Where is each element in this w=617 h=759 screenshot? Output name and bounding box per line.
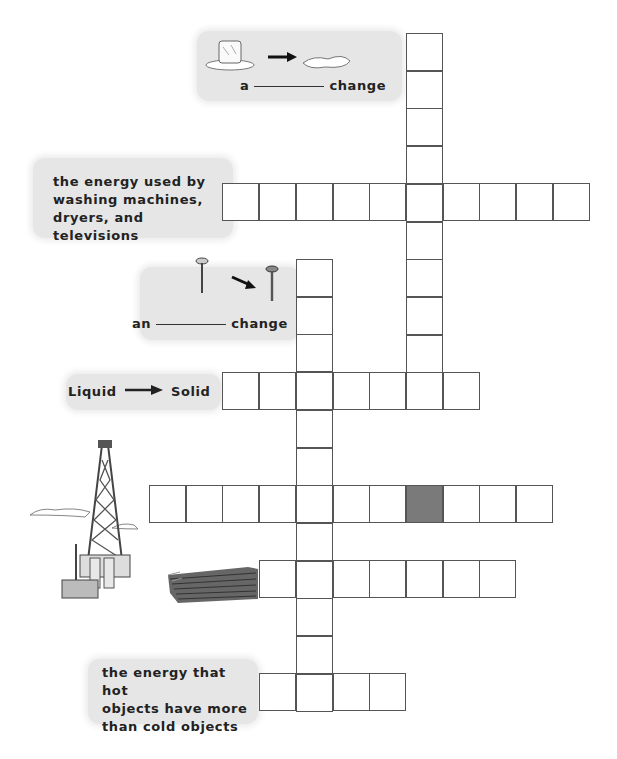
arrow-right-icon	[125, 385, 163, 395]
answer-blank	[156, 324, 226, 325]
crossword-cell[interactable]	[369, 560, 406, 598]
clue-freezing-label: Liquid Solid	[68, 383, 210, 401]
clue-thermal-text: the energy that hot objects have more th…	[102, 664, 257, 736]
ice-melting-icon	[203, 35, 353, 73]
crossword-cell[interactable]	[333, 372, 370, 410]
clue-line: dryers, and televisions	[53, 209, 228, 245]
crossword-cell[interactable]	[406, 108, 443, 146]
crossword-cell[interactable]	[516, 183, 553, 221]
answer-blank	[254, 86, 324, 87]
clue-freezing: Liquid Solid	[66, 374, 221, 410]
clue-physical-change-label: achange	[240, 77, 386, 95]
clue-prefix: a	[240, 78, 249, 93]
clue-physical-change: achange	[197, 31, 402, 101]
clue-line: the energy that hot	[102, 664, 257, 700]
crossword-cell[interactable]	[222, 372, 259, 410]
crossword-cell[interactable]	[406, 71, 443, 109]
crossword-cell[interactable]	[406, 560, 443, 598]
crossword-cell[interactable]	[406, 372, 443, 410]
crossword-cell[interactable]	[186, 485, 223, 523]
crossword-cell[interactable]	[333, 183, 370, 221]
crossword-cell[interactable]	[296, 636, 333, 674]
crossword-cell[interactable]	[406, 297, 443, 335]
crossword-cell[interactable]	[369, 673, 406, 711]
crossword-cell[interactable]	[406, 146, 443, 184]
crossword-cell[interactable]	[333, 485, 370, 523]
crossword-cell[interactable]	[516, 485, 553, 523]
crossword-cell[interactable]	[296, 448, 333, 486]
crossword-cell[interactable]	[443, 560, 480, 598]
crossword-cell[interactable]	[222, 183, 259, 221]
clue-chemical-label: anchange	[132, 315, 288, 333]
crossword-cell[interactable]	[369, 183, 406, 221]
clue-thermal-energy: the energy that hot objects have more th…	[88, 659, 258, 724]
clue-line: objects have more	[102, 700, 257, 718]
clue-to: Solid	[171, 384, 211, 399]
crossword-cell[interactable]	[369, 485, 406, 523]
crossword-cell[interactable]	[222, 485, 259, 523]
crossword-cell[interactable]	[296, 410, 333, 448]
crossword-cell[interactable]	[406, 222, 443, 260]
crossword-cell[interactable]	[369, 372, 406, 410]
crossword-cell[interactable]	[296, 561, 333, 599]
clue-prefix: an	[132, 316, 151, 331]
crossword-cell[interactable]	[333, 673, 370, 711]
crossword-cell[interactable]	[259, 560, 296, 598]
clue-electrical-energy: the energy used by washing machines, dry…	[33, 158, 233, 238]
crossword-cell[interactable]	[296, 523, 333, 561]
crossword-cell[interactable]	[259, 485, 296, 523]
crossword-cell[interactable]	[259, 673, 296, 711]
crossword-cell[interactable]	[443, 183, 480, 221]
crossword-cell[interactable]	[406, 33, 443, 71]
clue-suffix: change	[231, 316, 288, 331]
crossword-cell[interactable]	[259, 372, 296, 410]
crossword-cell-shaded[interactable]	[406, 485, 443, 523]
crossword-cell[interactable]	[406, 184, 443, 222]
crossword-cell[interactable]	[443, 372, 480, 410]
oil-derrick-icon	[30, 440, 150, 605]
crossword-cell[interactable]	[553, 183, 590, 221]
lumber-stack-icon	[168, 563, 258, 603]
clue-line: the energy used by	[53, 173, 228, 191]
crossword-cell[interactable]	[479, 485, 516, 523]
crossword-cell[interactable]	[296, 674, 333, 712]
crossword-cell[interactable]	[259, 183, 296, 221]
crossword-cell[interactable]	[296, 334, 333, 372]
clue-electrical-text: the energy used by washing machines, dry…	[53, 173, 228, 245]
clue-line: washing machines,	[53, 191, 228, 209]
clue-chemical-change: anchange	[140, 267, 300, 340]
crossword-cell[interactable]	[296, 297, 333, 335]
crossword-cell[interactable]	[296, 598, 333, 636]
clue-suffix: change	[329, 78, 386, 93]
crossword-cell[interactable]	[479, 183, 516, 221]
clue-from: Liquid	[68, 384, 117, 399]
crossword-cell[interactable]	[296, 183, 333, 221]
crossword-cell[interactable]	[333, 560, 370, 598]
crossword-cell[interactable]	[296, 372, 333, 410]
crossword-cell[interactable]	[296, 485, 333, 523]
crossword-cell[interactable]	[479, 560, 516, 598]
screw-rusting-icon	[190, 255, 290, 310]
crossword-cell[interactable]	[443, 485, 480, 523]
crossword-cell[interactable]	[406, 335, 443, 373]
crossword-cell[interactable]	[149, 485, 186, 523]
crossword-cell[interactable]	[406, 259, 443, 297]
clue-line: than cold objects	[102, 718, 257, 736]
crossword-cell[interactable]	[296, 259, 333, 297]
